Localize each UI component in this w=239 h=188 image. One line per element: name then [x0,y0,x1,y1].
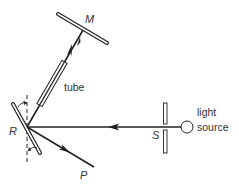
point-p-label: P [80,169,88,181]
slit-s [164,103,168,153]
rotation-arrowhead-bottom-icon [28,147,32,151]
light-source-icon [181,121,193,133]
mirror-m [58,14,107,43]
rotating-mirror-label: R [9,125,17,137]
slit-label: S [152,129,160,141]
light-source-label-line2: source [197,121,229,133]
tube-label: tube [64,81,85,93]
tube [37,60,67,106]
arrow-down-right-icon [59,145,70,153]
rotation-arrowhead-top-icon [24,101,28,106]
light-source-label-line1: light [197,106,216,118]
light-speed-apparatus-diagram: M tube R P S light source [0,0,239,188]
mirror-m-label: M [85,13,95,25]
